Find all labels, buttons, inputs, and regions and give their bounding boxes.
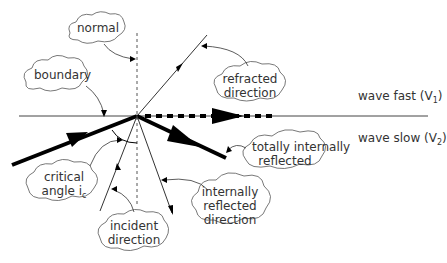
pointer-incident <box>114 190 134 212</box>
label-wave-fast: wave fast (V1) <box>358 89 443 105</box>
label-incident-line2: direction <box>106 233 162 247</box>
internally-reflected-arrow-icon <box>168 205 173 215</box>
reflected-arrow-icon <box>167 125 200 147</box>
pointer-critical <box>90 140 120 166</box>
pointer-boundary <box>86 86 104 114</box>
incident-arrow-icon <box>66 132 88 147</box>
pointer-irefl-head-icon <box>161 177 167 183</box>
label-refracted-direction: refracted direction <box>222 72 278 100</box>
label-critical-line1: critical <box>36 170 92 184</box>
pointer-refracted-head-icon <box>201 43 207 49</box>
pointer-incident-head-icon <box>111 186 117 192</box>
label-critical-line2: angle ic <box>36 184 92 203</box>
refracted-arrow-icon <box>176 63 183 72</box>
label-tir-line2: reflected <box>252 154 318 168</box>
label-internally-reflected-direction: internally reflected direction <box>200 185 260 227</box>
pointer-normal <box>104 44 133 59</box>
label-totally-internally-reflected: totally internally reflected <box>252 140 318 168</box>
label-incident-direction: incident direction <box>106 219 162 247</box>
label-irefl-line2: reflected <box>200 199 260 213</box>
label-refracted-line2: direction <box>222 86 278 100</box>
label-incident-line1: incident <box>106 219 162 233</box>
boundary-arrow-icon <box>212 108 244 124</box>
pointer-refracted <box>204 46 248 66</box>
label-tir-line1: totally internally <box>252 140 318 154</box>
label-wave-slow: wave slow (V2) <box>358 131 447 147</box>
label-refracted-line1: refracted <box>222 72 278 86</box>
critical-angle-arc <box>112 130 137 143</box>
label-normal: normal <box>77 21 119 35</box>
label-irefl-line3: direction <box>200 213 260 227</box>
label-irefl-line1: internally <box>200 185 260 199</box>
label-critical-angle: critical angle ic <box>36 170 92 203</box>
pointer-normal-head-icon <box>130 56 136 62</box>
label-boundary: boundary <box>34 68 84 82</box>
refracted-ray <box>137 35 207 116</box>
